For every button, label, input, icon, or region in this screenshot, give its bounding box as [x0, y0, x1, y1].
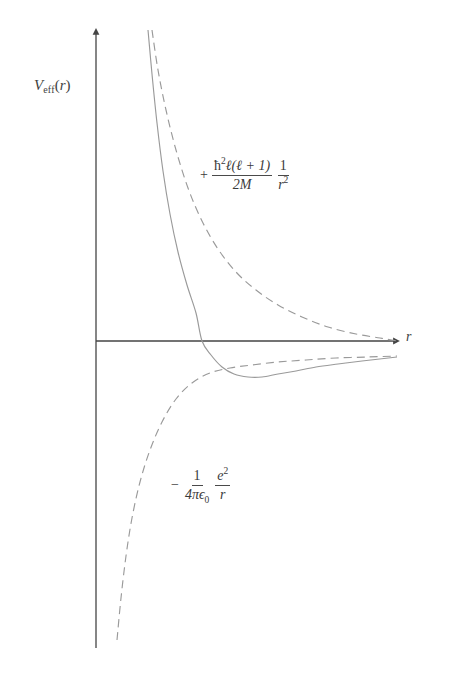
annotation-centrifugal-term: + ħ2ℓ(ℓ + 1) 2M 1 r2	[200, 158, 292, 192]
centrifugal-fraction: ħ2ℓ(ℓ + 1) 2M	[212, 158, 272, 192]
coulomb-prefactor-fraction: 1 4πϵ0	[183, 468, 211, 502]
hbar-symbol: ħ	[214, 158, 221, 173]
effective-potential-figure: Veff(r) r + ħ2ℓ(ℓ + 1) 2M 1 r2 − 1 4πϵ0 …	[0, 0, 450, 683]
coulomb-charge-numerator: e2	[215, 468, 230, 486]
x-axis-label: r	[406, 330, 411, 344]
y-axis-label-argument: (r)	[55, 77, 71, 93]
coulomb-denominator-prefix: 4πϵ	[185, 487, 205, 502]
y-axis-label-variable: r	[60, 77, 66, 93]
coulomb-denominator-subscript: 0	[205, 494, 210, 504]
centrifugal-numerator: ħ2ℓ(ℓ + 1)	[212, 158, 272, 176]
y-axis-label-subscript: eff	[43, 84, 55, 95]
centrifugal-numerator-rest: (ℓ + 1)	[232, 158, 271, 173]
coulomb-denominator: 4πϵ0	[183, 486, 211, 503]
coulomb-charge-fraction: e2 r	[215, 468, 230, 502]
coulomb-sign: −	[171, 477, 179, 493]
inverse-r2-denominator: r2	[276, 176, 290, 193]
centrifugal-denominator: 2M	[231, 176, 254, 193]
coulomb-charge-denominator: r	[218, 486, 227, 503]
curve-effective-potential	[148, 30, 397, 377]
curve-coulomb-potential	[117, 356, 397, 640]
coulomb-numerator: 1	[192, 468, 203, 486]
y-axis-label-symbol: V	[34, 77, 43, 93]
inverse-r2-exponent: 2	[284, 175, 289, 185]
y-axis-label: Veff(r)	[34, 78, 71, 95]
centrifugal-sign: +	[200, 167, 208, 183]
centrifugal-inverse-r-squared: 1 r2	[276, 158, 290, 192]
potential-plot-svg	[0, 0, 450, 683]
inverse-r2-numerator: 1	[278, 158, 289, 176]
annotation-coulomb-term: − 1 4πϵ0 e2 r	[171, 468, 232, 502]
electron-charge-exponent: 2	[224, 466, 229, 476]
